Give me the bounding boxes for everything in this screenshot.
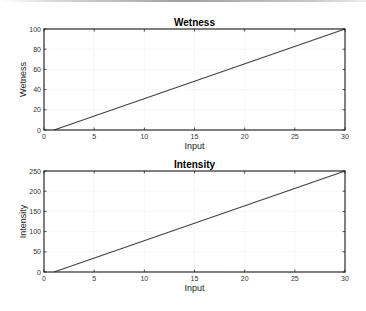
y-tick-label: 250	[29, 168, 41, 175]
subplot-1: 051015202530020406080100WetnessInputWetn…	[18, 17, 349, 151]
x-tick-label: 25	[291, 275, 299, 282]
y-axis-label: Intensity	[18, 204, 28, 238]
y-tick-label: 20	[33, 106, 41, 113]
y-tick-label: 0	[37, 127, 41, 134]
x-tick-label: 5	[92, 133, 96, 140]
y-tick-label: 0	[37, 269, 41, 276]
y-tick-label: 100	[29, 26, 41, 33]
y-tick-label: 50	[33, 248, 41, 255]
y-tick-label: 150	[29, 208, 41, 215]
series-line-wetness	[54, 29, 345, 130]
chart-title: Wetness	[174, 17, 215, 28]
figure: 051015202530020406080100WetnessInputWetn…	[0, 0, 366, 311]
y-tick-label: 100	[29, 228, 41, 235]
y-tick-label: 200	[29, 188, 41, 195]
x-tick-label: 25	[291, 133, 299, 140]
x-tick-label: 0	[42, 133, 46, 140]
x-tick-label: 10	[140, 275, 148, 282]
x-tick-label: 20	[241, 275, 249, 282]
x-tick-label: 10	[140, 133, 148, 140]
y-tick-label: 40	[33, 86, 41, 93]
x-tick-label: 0	[42, 275, 46, 282]
y-axis-label: Wetness	[18, 62, 28, 97]
series-line-intensity	[54, 171, 345, 272]
x-tick-label: 15	[191, 275, 199, 282]
x-tick-label: 30	[341, 133, 349, 140]
y-tick-label: 60	[33, 66, 41, 73]
chart-title: Intensity	[174, 159, 216, 170]
x-axis-label: Input	[184, 141, 205, 151]
x-tick-label: 15	[191, 133, 199, 140]
x-tick-label: 5	[92, 275, 96, 282]
x-tick-label: 30	[341, 275, 349, 282]
x-tick-label: 20	[241, 133, 249, 140]
subplot-2: 051015202530050100150200250IntensityInpu…	[18, 159, 349, 293]
y-tick-label: 80	[33, 46, 41, 53]
x-axis-label: Input	[184, 283, 205, 293]
